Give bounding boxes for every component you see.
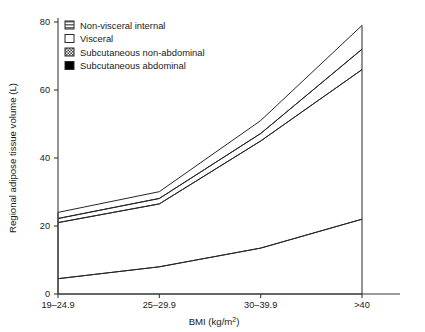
y-tick-label-80: 80 — [40, 17, 50, 27]
x-tick-label-1: 25–29.9 — [143, 300, 176, 310]
x-axis-title-main: BMI (kg/m — [189, 316, 233, 327]
x-tick-marks — [58, 294, 362, 298]
x-tick-labels: 19–24.9 25–29.9 30–39.9 >40 — [41, 300, 369, 310]
legend-swatch-checker-swatch — [65, 48, 74, 56]
y-tick-marks — [54, 22, 58, 294]
legend-label-subcutaneous-abdominal: Subcutaneous abdominal — [80, 60, 186, 71]
stacked-area-chart: 0 20 40 60 80 19–24.9 25–29.9 30–39.9 >4… — [0, 0, 425, 332]
area-band-visceral — [58, 49, 362, 222]
y-tick-label-40: 40 — [40, 153, 50, 163]
legend-swatch-black-swatch — [65, 62, 74, 70]
area-band-subcutaneous-non-abdominal — [58, 70, 362, 279]
x-tick-label-0: 19–24.9 — [41, 300, 74, 310]
y-tick-label-20: 20 — [40, 221, 50, 231]
y-tick-label-0: 0 — [45, 289, 50, 299]
legend-label-non-visceral-internal: Non-visceral internal — [80, 20, 165, 31]
legend-swatch-hatch-horizontal-swatch — [65, 21, 74, 29]
area-band-subcutaneous-abdominal — [58, 219, 362, 294]
legend-swatch-white-swatch — [65, 35, 74, 43]
legend-label-visceral: Visceral — [80, 33, 113, 44]
chart-legend: Non-visceral internal Visceral Subcutane… — [65, 20, 205, 72]
legend-label-subcutaneous-non-abdominal: Subcutaneous non-abdominal — [80, 47, 205, 58]
x-axis-title: BMI (kg/m2) — [189, 316, 240, 327]
x-tick-label-2: 30–39.9 — [244, 300, 277, 310]
chart-figure: 0 20 40 60 80 19–24.9 25–29.9 30–39.9 >4… — [0, 0, 425, 332]
y-tick-labels: 0 20 40 60 80 — [40, 17, 50, 299]
y-tick-label-60: 60 — [40, 85, 50, 95]
x-tick-label-3: >40 — [354, 300, 370, 310]
x-axis-title-tail: ) — [236, 316, 239, 327]
y-axis-title: Regional adipose tissue volume (L) — [7, 83, 18, 233]
